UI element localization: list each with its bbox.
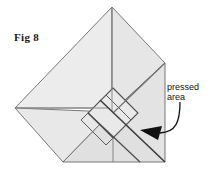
figure-container: Fig 8 pressed area xyxy=(0,0,210,174)
callout-line-2: area xyxy=(167,92,199,102)
panel-upper-left xyxy=(15,7,112,108)
pressed-area-callout: pressed area xyxy=(167,82,199,102)
figure-label: Fig 8 xyxy=(14,31,39,43)
callout-line-1: pressed xyxy=(167,82,199,92)
